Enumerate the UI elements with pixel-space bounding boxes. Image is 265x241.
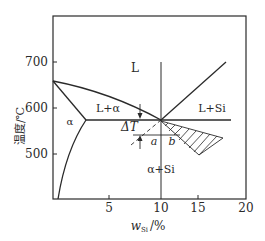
x-tick-5: 5 [105,201,113,215]
x-axis-ticks: 5 10 15 20 [105,195,253,215]
solidus-line [53,81,86,120]
x-tick-10: 10 [153,201,168,215]
point-a-label: a [151,135,158,148]
y-tick-600: 600 [25,101,48,115]
y-tick-700: 700 [25,55,48,69]
region-label-liquid: L [131,61,139,75]
region-label-liquid-si: L+Si [198,102,226,115]
region-label-liquid-alpha: L+α [96,102,121,115]
y-axis-label: 温度/℃ [13,107,27,145]
region-label-alpha-si: α+Si [147,163,175,176]
solvus-curve [58,120,86,199]
delta-t-label: ΔT [120,120,139,134]
x-tick-15: 15 [190,201,205,215]
point-b-label: b [168,135,175,148]
y-tick-500: 500 [25,147,48,161]
phase-diagram: 700 600 500 5 10 15 20 w Si /% 温度/℃ [0,0,265,241]
region-label-alpha: α [67,116,74,127]
x-axis-label-unit: /% [150,219,165,233]
x-axis-label-sub: Si [141,226,149,234]
y-axis-ticks: 700 600 500 [25,55,57,161]
x-tick-20: 20 [238,201,253,215]
